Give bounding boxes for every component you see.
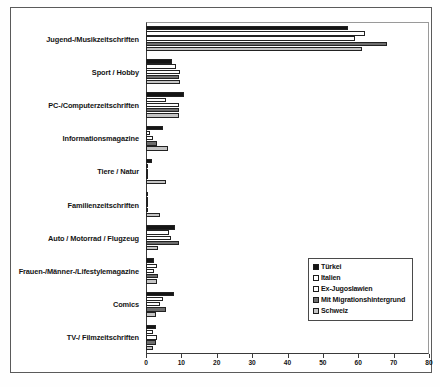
bar-row bbox=[146, 136, 429, 141]
x-tick bbox=[217, 354, 218, 358]
bar-4-2 bbox=[146, 113, 179, 118]
bar-row bbox=[146, 113, 429, 118]
bar-row bbox=[146, 36, 429, 41]
bar-4-6 bbox=[146, 246, 158, 251]
bar-row bbox=[146, 208, 429, 213]
bar-row bbox=[146, 340, 429, 345]
x-tick bbox=[394, 354, 395, 358]
chart-legend: TürkeiItalienEx-JugoslawienMit Migration… bbox=[308, 258, 413, 321]
bar-2-2 bbox=[146, 103, 179, 108]
category-label: Informationsmagazine bbox=[15, 134, 139, 143]
bar-4-3 bbox=[146, 146, 168, 151]
bar-1-7 bbox=[146, 264, 157, 269]
bar-row bbox=[146, 325, 429, 330]
bar-4-7 bbox=[146, 279, 157, 284]
category-label: Auto / Motorrad / Flugzeug bbox=[15, 233, 139, 242]
bar-3-7 bbox=[146, 274, 158, 279]
bar-row bbox=[146, 330, 429, 335]
bar-3-6 bbox=[146, 241, 179, 246]
bar-3-5 bbox=[146, 208, 148, 213]
bar-row bbox=[146, 192, 429, 197]
x-tick-label: 60 bbox=[355, 359, 362, 366]
legend-entry-4[interactable]: Schweiz bbox=[313, 306, 409, 316]
legend-entry-3[interactable]: Mit Migrationshintergrund bbox=[313, 295, 409, 305]
bar-row bbox=[146, 197, 429, 202]
bar-2-4 bbox=[146, 169, 148, 174]
bar-0-7 bbox=[146, 258, 154, 263]
bar-0-8 bbox=[146, 292, 174, 297]
bar-2-6 bbox=[146, 236, 171, 241]
bar-0-4 bbox=[146, 159, 152, 164]
bar-row bbox=[146, 75, 429, 80]
bar-4-9 bbox=[146, 346, 153, 351]
bar-1-3 bbox=[146, 131, 150, 136]
bar-3-4 bbox=[146, 174, 148, 179]
bar-row bbox=[146, 64, 429, 69]
bar-row bbox=[146, 146, 429, 151]
bar-2-1 bbox=[146, 70, 180, 75]
bar-2-5 bbox=[146, 202, 148, 207]
bar-0-3 bbox=[146, 126, 163, 131]
x-tick bbox=[181, 354, 182, 358]
bar-row bbox=[146, 225, 429, 230]
figure-frame: Jugend-/MusikzeitschriftenSport / HobbyP… bbox=[10, 7, 432, 373]
category-label: Comics bbox=[15, 300, 139, 309]
bar-0-6 bbox=[146, 225, 175, 230]
legend-swatch-icon bbox=[313, 264, 319, 270]
legend-swatch-icon bbox=[313, 308, 319, 314]
category-label: Frauen-/Männer-/Lifestylemagazine bbox=[15, 267, 139, 276]
bar-row bbox=[146, 335, 429, 340]
legend-swatch-icon bbox=[313, 275, 319, 281]
bar-row bbox=[146, 246, 429, 251]
x-tick-label: 20 bbox=[213, 359, 220, 366]
bar-row bbox=[146, 92, 429, 97]
bar-row bbox=[146, 164, 429, 169]
bar-row bbox=[146, 59, 429, 64]
legend-entry-2[interactable]: Ex-Jugoslawien bbox=[313, 284, 409, 294]
bar-row bbox=[146, 202, 429, 207]
x-tick-label: 30 bbox=[248, 359, 255, 366]
legend-label: Italien bbox=[321, 274, 340, 282]
bar-2-0 bbox=[146, 36, 355, 41]
x-tick-label: 70 bbox=[390, 359, 397, 366]
category-label: TV-/ Filmzeitschriften bbox=[15, 333, 139, 342]
legend-entry-1[interactable]: Italien bbox=[313, 273, 409, 283]
bar-row bbox=[146, 103, 429, 108]
category-label: Jugend-/Musikzeitschriften bbox=[15, 34, 139, 43]
bar-3-9 bbox=[146, 340, 156, 345]
bar-0-1 bbox=[146, 59, 172, 64]
bar-1-1 bbox=[146, 64, 176, 69]
legend-label: Ex-Jugoslawien bbox=[321, 285, 373, 293]
x-axis: 01020304050607080 bbox=[146, 354, 429, 372]
legend-label: Mit Migrationshintergrund bbox=[321, 296, 405, 304]
bar-row bbox=[146, 180, 429, 185]
bar-1-6 bbox=[146, 230, 169, 235]
bar-row bbox=[146, 80, 429, 85]
x-tick-label: 50 bbox=[319, 359, 326, 366]
bar-row bbox=[146, 47, 429, 52]
legend-entry-0[interactable]: Türkei bbox=[313, 262, 409, 272]
bar-row bbox=[146, 230, 429, 235]
x-tick-label: 0 bbox=[144, 359, 148, 366]
bar-row bbox=[146, 70, 429, 75]
chart-page: Jugend-/MusikzeitschriftenSport / HobbyP… bbox=[0, 0, 440, 387]
bar-row bbox=[146, 169, 429, 174]
bar-3-8 bbox=[146, 307, 166, 312]
bar-4-5 bbox=[146, 213, 160, 218]
bar-2-7 bbox=[146, 269, 154, 274]
bar-row bbox=[146, 236, 429, 241]
bar-2-3 bbox=[146, 136, 153, 141]
bar-row bbox=[146, 108, 429, 113]
bar-row bbox=[146, 126, 429, 131]
bar-1-8 bbox=[146, 297, 163, 302]
bar-3-0 bbox=[146, 42, 387, 47]
bar-row bbox=[146, 174, 429, 179]
x-tick-label: 10 bbox=[178, 359, 185, 366]
bar-4-1 bbox=[146, 80, 180, 85]
bar-1-2 bbox=[146, 98, 166, 103]
bar-4-4 bbox=[146, 180, 166, 185]
legend-label: Schweiz bbox=[321, 307, 348, 315]
bar-0-5 bbox=[146, 192, 148, 197]
x-tick-label: 80 bbox=[425, 359, 432, 366]
x-tick bbox=[146, 354, 147, 358]
